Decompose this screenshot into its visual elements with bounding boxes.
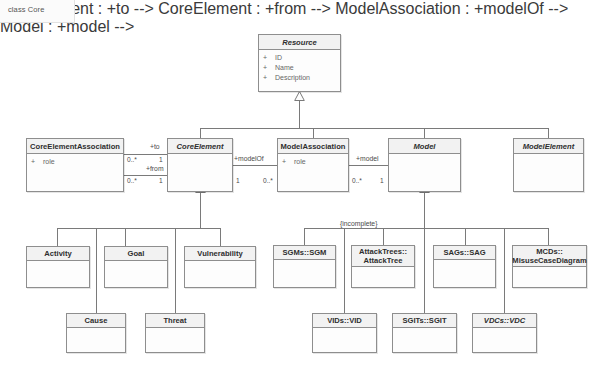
class-name-cause: Cause — [67, 314, 125, 328]
attribute-visibility: + — [263, 73, 268, 83]
generalization-bus-model — [304, 228, 548, 229]
class-box-model-element[interactable]: ModelElement — [513, 138, 584, 192]
class-box-sgm[interactable]: SGMs::SGM — [273, 245, 336, 288]
generalization-drop-sgm — [304, 228, 305, 245]
generalization-drop-attack-tree — [383, 228, 384, 245]
generalization-drop-mcd — [548, 228, 549, 245]
generalization-drop-vulnerability — [220, 228, 221, 246]
association-multiplicity-model-target: 1 — [380, 177, 384, 185]
class-diagram-canvas: class Core CoreElement : +to --> CoreEle… — [0, 0, 599, 385]
generalization-drop-model-association — [313, 128, 314, 138]
generalization-drop-vdc — [504, 228, 505, 313]
class-name-model: Model — [389, 139, 460, 154]
attribute-visibility: + — [263, 53, 268, 63]
class-name-core-element: CoreElement — [168, 139, 232, 154]
attribute-visibility: + — [282, 157, 287, 167]
association-multiplicity-from-target: 1 — [159, 177, 163, 185]
class-name-core-element-association: CoreElementAssociation — [27, 139, 123, 154]
association-multiplicity-modelof-source: 1 — [236, 177, 240, 185]
class-box-resource[interactable]: Resource + ID + Name + Description — [258, 34, 341, 92]
class-box-model-association[interactable]: ModelAssociation + role — [277, 138, 349, 192]
class-name-sgm: SGMs::SGM — [274, 246, 335, 260]
class-box-sgit[interactable]: SGITs::SGIT — [392, 313, 457, 353]
class-name-vdc: VDCs::VDC — [473, 314, 536, 328]
class-box-threat[interactable]: Threat — [145, 313, 205, 353]
class-name-attack-tree: AttackTrees:: AttackTree — [352, 246, 414, 267]
generalization-stem-model — [424, 192, 425, 228]
association-multiplicity-from-source: 0..* — [127, 177, 137, 185]
association-from-line — [124, 175, 167, 176]
attribute-name: role — [294, 157, 306, 167]
class-name-activity: Activity — [27, 247, 89, 261]
attribute-row: + ID — [263, 53, 336, 63]
class-attributes-resource: + ID + Name + Description — [259, 50, 340, 85]
generalization-drop-cause — [96, 228, 97, 313]
association-label-to: +to — [150, 143, 160, 151]
association-multiplicity-modelof-target: 0..* — [263, 177, 273, 185]
generalization-stem-resource — [299, 100, 300, 128]
generalization-bus-resource — [200, 128, 548, 129]
diagram-title: class Core — [8, 5, 44, 14]
generalization-drop-model-element — [548, 128, 549, 138]
generalization-drop-activity — [57, 228, 58, 246]
association-multiplicity-to-target: 1 — [159, 156, 163, 164]
class-name-model-element: ModelElement — [514, 139, 583, 154]
class-box-vulnerability[interactable]: Vulnerability — [184, 246, 256, 288]
generalization-drop-model — [424, 128, 425, 138]
attribute-visibility: + — [31, 157, 36, 167]
association-label-model: +model — [356, 155, 378, 163]
class-name-model-association: ModelAssociation — [278, 139, 348, 154]
class-name-goal: Goal — [105, 247, 167, 261]
attribute-name: Name — [275, 63, 294, 73]
class-name-sgit: SGITs::SGIT — [393, 314, 456, 328]
generalization-drop-sag — [465, 228, 466, 245]
generalization-drop-core-element — [200, 128, 201, 138]
class-box-vdc[interactable]: VDCs::VDC — [472, 313, 537, 353]
generalization-bus-core-element — [57, 228, 220, 229]
association-multiplicity-to-source: 0..* — [127, 156, 137, 164]
class-box-model[interactable]: Model — [388, 138, 461, 192]
class-attributes-core-element-association: + role — [27, 154, 123, 169]
class-box-attack-tree[interactable]: AttackTrees:: AttackTree — [351, 245, 415, 288]
attribute-row: + Description — [263, 73, 336, 83]
association-to-line — [124, 154, 167, 155]
class-box-vid[interactable]: VIDs::VID — [312, 313, 377, 353]
class-box-sag[interactable]: SAGs::SAG — [433, 245, 496, 288]
class-box-cause[interactable]: Cause — [66, 313, 126, 353]
generalization-drop-sgit — [424, 228, 425, 313]
class-box-core-element[interactable]: CoreElement — [167, 138, 233, 192]
attribute-name: ID — [275, 53, 282, 63]
class-box-mcd[interactable]: MCDs:: MisuseCaseDiagram — [512, 245, 587, 288]
attribute-visibility: + — [263, 63, 268, 73]
generalization-stem-core-element — [200, 192, 201, 228]
class-name-vid: VIDs::VID — [313, 314, 376, 328]
attribute-row: + role — [282, 157, 344, 167]
class-box-core-element-association[interactable]: CoreElementAssociation + role — [26, 138, 124, 192]
association-multiplicity-model-source: 0..* — [352, 177, 362, 185]
class-attributes-model-association: + role — [278, 154, 348, 169]
association-modelof-line — [233, 165, 277, 166]
class-name-resource: Resource — [259, 35, 340, 50]
generalization-drop-goal — [125, 228, 126, 246]
generalization-triangle-resource — [294, 91, 305, 100]
association-label-from: +from — [146, 165, 164, 173]
class-box-activity[interactable]: Activity — [26, 246, 90, 288]
attribute-name: role — [43, 157, 55, 167]
generalization-drop-vid — [344, 228, 345, 313]
attribute-row: + Name — [263, 63, 336, 73]
association-label-modelof: +modelOf — [234, 155, 264, 163]
association-model-line — [349, 165, 388, 166]
attribute-row: + role — [31, 157, 119, 167]
class-name-sag: SAGs::SAG — [434, 246, 495, 260]
class-box-goal[interactable]: Goal — [104, 246, 168, 288]
attribute-name: Description — [275, 73, 310, 83]
generalization-drop-threat — [175, 228, 176, 313]
class-name-threat: Threat — [146, 314, 204, 328]
class-name-mcd: MCDs:: MisuseCaseDiagram — [513, 246, 586, 267]
generalization-constraint-incomplete: {incomplete} — [340, 220, 377, 227]
class-name-vulnerability: Vulnerability — [185, 247, 255, 261]
